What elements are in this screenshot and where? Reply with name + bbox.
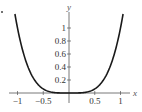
y-tick-label: 0.2 bbox=[55, 75, 66, 85]
x-tick-label: 0.5 bbox=[89, 96, 101, 106]
y-tick-label: 1 bbox=[62, 23, 67, 33]
axes bbox=[9, 12, 130, 103]
y-tick-label: 0.8 bbox=[55, 36, 67, 46]
bullet-dot bbox=[1, 11, 3, 13]
x-axis-label: x bbox=[132, 88, 137, 98]
x-tick-label: −0.5 bbox=[35, 96, 52, 106]
y-tick-label: 0.6 bbox=[55, 49, 67, 59]
y-tick-label: 0.4 bbox=[55, 62, 67, 72]
x-tick-label: −1 bbox=[13, 96, 23, 106]
y-axis-label: y bbox=[66, 2, 71, 12]
function-plot: −1−0.50.510.20.40.60.81 x y bbox=[0, 0, 142, 112]
x-tick-label: 1 bbox=[118, 96, 123, 106]
